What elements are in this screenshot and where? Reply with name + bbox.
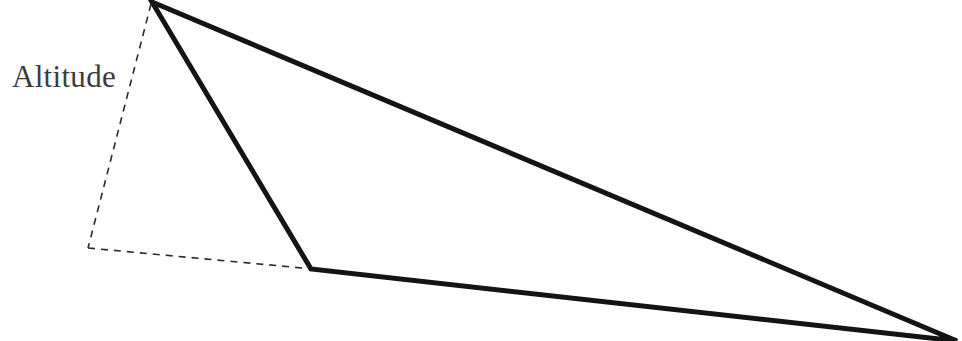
- triangle-geometry-canvas: [0, 0, 962, 341]
- altitude-diagram: Altitude: [0, 0, 962, 341]
- triangle-outline: [152, 2, 957, 341]
- altitude-dashed-line: [88, 4, 151, 248]
- altitude-label: Altitude: [12, 60, 116, 94]
- base-extension-dashed-line: [88, 248, 313, 269]
